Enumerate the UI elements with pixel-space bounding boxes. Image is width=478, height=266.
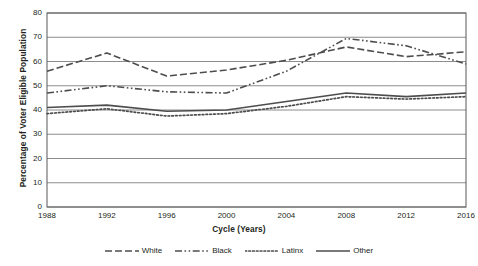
legend-label: Latinx	[282, 247, 303, 255]
chart-figure: Percentage of Voter Eligible Population …	[0, 0, 478, 266]
legend-item-white[interactable]: White	[105, 247, 162, 255]
y-tick-label: 80	[16, 9, 42, 17]
legend-label: Other	[353, 247, 373, 255]
x-tick-label: 2000	[207, 212, 247, 220]
x-tick-label: 1992	[87, 212, 127, 220]
legend-swatch-black-icon	[175, 247, 209, 255]
series-line-black	[47, 38, 466, 93]
data-series-group	[47, 38, 466, 116]
line-chart-svg	[0, 0, 478, 266]
legend-item-latinx[interactable]: Latinx	[245, 247, 303, 255]
y-tick-label: 30	[16, 130, 42, 138]
y-tick-label: 70	[16, 33, 42, 41]
legend-item-black[interactable]: Black	[175, 247, 232, 255]
legend-label: White	[142, 247, 162, 255]
x-tick-label: 2012	[386, 212, 426, 220]
y-tick-label: 40	[16, 106, 42, 114]
x-tick-label: 2008	[326, 212, 366, 220]
legend-swatch-other-icon	[316, 247, 350, 255]
plot-area	[0, 0, 478, 266]
legend-label: Black	[212, 247, 232, 255]
y-tick-label: 0	[16, 203, 42, 211]
y-tick-label: 20	[16, 155, 42, 163]
y-tick-label: 50	[16, 82, 42, 90]
x-tick-label: 2016	[446, 212, 478, 220]
x-tick-label: 2004	[266, 212, 306, 220]
legend-item-other[interactable]: Other	[316, 247, 373, 255]
x-tick-label: 1996	[147, 212, 187, 220]
x-tick-label: 1988	[27, 212, 67, 220]
legend-swatch-white-icon	[105, 247, 139, 255]
y-tick-label: 10	[16, 179, 42, 187]
legend-swatch-latinx-icon	[245, 247, 279, 255]
y-tick-label: 60	[16, 58, 42, 66]
chart-legend: WhiteBlackLatinxOther	[0, 247, 478, 255]
